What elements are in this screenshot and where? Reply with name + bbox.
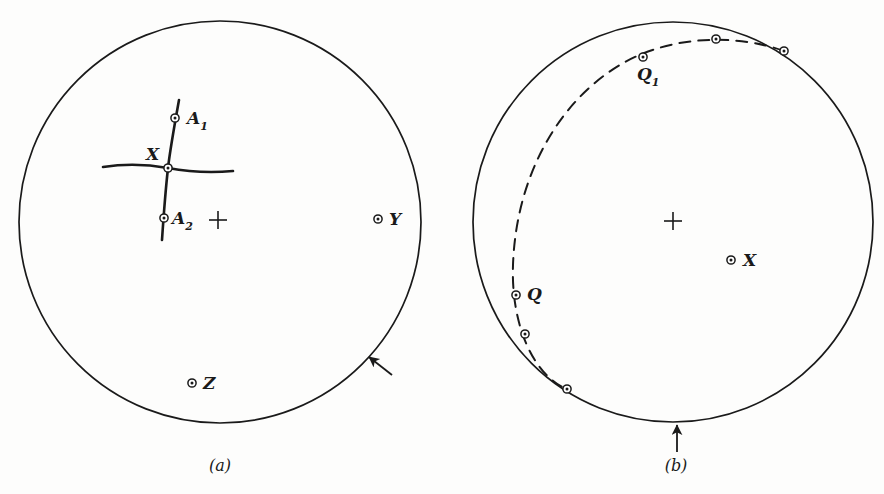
point-label-subscript: 1: [200, 120, 208, 133]
pole-marker-dot: [191, 382, 194, 385]
pole-marker-z: [188, 379, 196, 387]
point-label-text: Y: [389, 209, 401, 229]
point-label-a-x: X: [146, 146, 159, 163]
pole-marker-dot: [377, 218, 380, 221]
svg-panel-group: [19, 21, 873, 452]
point-label-a-a2: A2: [172, 210, 193, 230]
pole-marker-a1: [171, 114, 179, 122]
figure-canvas: [0, 0, 884, 494]
pole-marker-dot: [783, 50, 786, 53]
point-label-text: Q: [527, 284, 542, 304]
pole-marker-5: [563, 385, 571, 393]
point-label-a-a1: A1: [187, 110, 208, 130]
pole-marker-dot: [174, 117, 177, 120]
point-label-text: X: [146, 144, 159, 164]
primitive-circle-a: [19, 21, 421, 423]
pole-marker-x: [164, 164, 172, 172]
point-label-text: Z: [203, 373, 215, 393]
point-label-text: Q: [637, 64, 652, 84]
point-label-text: A: [187, 108, 200, 128]
pole-marker-4: [521, 330, 529, 338]
point-label-subscript: 2: [185, 220, 193, 233]
dashed-great-circle-trace: [513, 40, 784, 389]
pole-marker-q: [512, 291, 520, 299]
edge-arrow-a: [369, 357, 392, 375]
point-label-text: A: [172, 208, 185, 228]
point-label-a-z: Z: [203, 375, 215, 392]
caption-a: (a): [209, 456, 231, 475]
point-label-b-q1: Q1: [637, 66, 659, 86]
pole-marker-a2: [160, 214, 168, 222]
point-label-subscript: 1: [652, 76, 660, 89]
pole-marker-1: [712, 35, 720, 43]
center-cross-icon-b: [664, 212, 682, 230]
pole-marker-dot: [566, 388, 569, 391]
center-cross-icon-a: [209, 211, 227, 229]
point-label-b-x: X: [743, 252, 756, 269]
pole-marker-dot: [515, 294, 518, 297]
pole-marker-dot: [642, 56, 645, 59]
pole-marker-x: [727, 256, 735, 264]
point-label-b-q: Q: [527, 286, 542, 303]
pole-marker-dot: [163, 217, 166, 220]
pole-marker-dot: [730, 259, 733, 262]
point-label-text: X: [743, 250, 756, 270]
pole-marker-dot: [524, 333, 527, 336]
pole-marker-dot: [167, 167, 170, 170]
figure-root: A1XA2YZQ1QX (a) (b): [0, 0, 884, 494]
point-label-a-y: Y: [389, 211, 401, 228]
pole-marker-dot: [715, 38, 718, 41]
panel-a: [19, 21, 421, 423]
pole-marker-q1: [639, 53, 647, 61]
pole-marker-0: [780, 47, 788, 55]
panel-b: [473, 22, 873, 452]
pole-marker-y: [374, 215, 382, 223]
caption-b: (b): [665, 456, 688, 475]
